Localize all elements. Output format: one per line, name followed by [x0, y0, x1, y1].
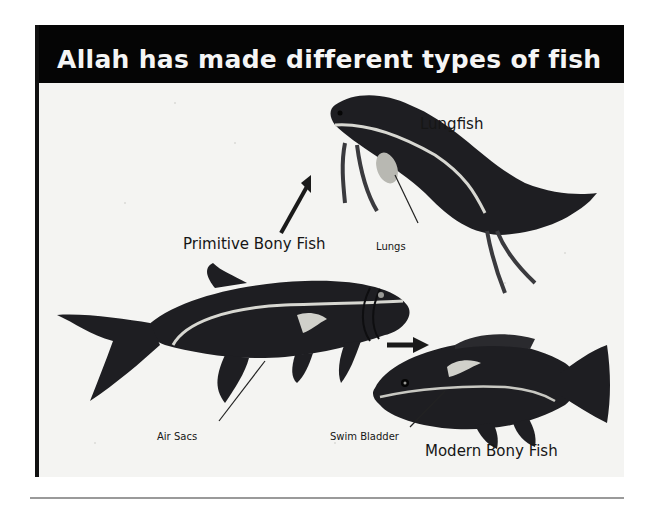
label-swim-bladder: Swim Bladder — [330, 431, 399, 442]
slide-left-border — [35, 25, 39, 477]
slide-title: Allah has made different types of fish — [57, 45, 601, 74]
bottom-divider — [30, 497, 624, 499]
primitive-bony-fish-painting — [57, 263, 410, 421]
slide: Allah has made different types of fish — [35, 25, 624, 477]
arrow-to-lungfish — [281, 175, 311, 233]
label-modern-bony-fish: Modern Bony Fish — [425, 442, 558, 460]
label-air-sacs: Air Sacs — [157, 431, 197, 442]
label-lungfish: Lungfish — [420, 115, 483, 133]
title-bar: Allah has made different types of fish — [35, 25, 624, 83]
arrow-to-modern — [387, 337, 429, 353]
fish-illustration — [35, 83, 624, 477]
label-lungs: Lungs — [376, 241, 406, 252]
modern-bony-fish-painting — [373, 334, 610, 449]
label-primitive-bony-fish: Primitive Bony Fish — [183, 235, 325, 253]
